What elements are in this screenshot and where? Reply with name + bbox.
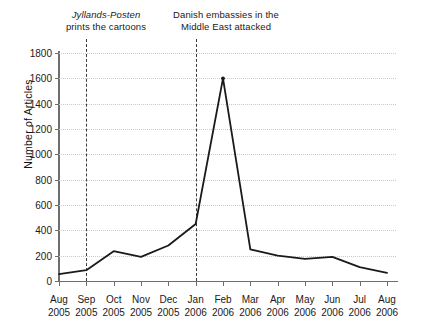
y-tick-label: 600 — [35, 200, 52, 211]
annotation-embassies: Danish embassies in the Middle East atta… — [161, 9, 291, 32]
y-tick-label: 0 — [46, 276, 52, 287]
x-tick-mark — [59, 281, 60, 286]
y-tick-label: 1600 — [30, 73, 52, 84]
annotation-embassies-line2: Middle East attacked — [181, 21, 271, 32]
x-tick-mark — [387, 281, 388, 286]
x-tick-mark — [250, 281, 251, 286]
annotation-cartoons-line2: prints the cartoons — [66, 21, 146, 32]
x-tick-label: Aug2006 — [367, 294, 407, 319]
series-polyline — [59, 78, 387, 274]
y-tick-label: 400 — [35, 225, 52, 236]
x-tick-mark — [360, 281, 361, 286]
x-tick-mark — [305, 281, 306, 286]
series-line — [59, 53, 396, 281]
y-tick-label: 1000 — [30, 149, 52, 160]
x-tick-mark — [86, 281, 87, 286]
y-tick-label: 1800 — [30, 48, 52, 59]
series-peak-point — [221, 76, 225, 80]
x-tick-mark — [278, 281, 279, 286]
plot-area: 020040060080010001200140016001800 Aug200… — [59, 53, 396, 281]
y-tick-label: 1200 — [30, 124, 52, 135]
x-tick-mark — [168, 281, 169, 286]
series-points — [221, 76, 225, 80]
x-tick-mark — [196, 281, 197, 286]
x-tick-mark — [141, 281, 142, 286]
x-tick-mark — [223, 281, 224, 286]
annotation-cartoons: Jyllands-Posten prints the cartoons — [46, 9, 166, 32]
x-tick-mark — [114, 281, 115, 286]
y-tick-label: 800 — [35, 174, 52, 185]
annotation-embassies-line1: Danish embassies in the — [173, 9, 279, 20]
y-tick-label: 1400 — [30, 98, 52, 109]
x-tick-mark — [332, 281, 333, 286]
y-tick-label: 200 — [35, 250, 52, 261]
annotation-cartoons-line1: Jyllands-Posten — [72, 9, 141, 20]
chart-figure: Jyllands-Posten prints the cartoons Dani… — [0, 0, 433, 328]
